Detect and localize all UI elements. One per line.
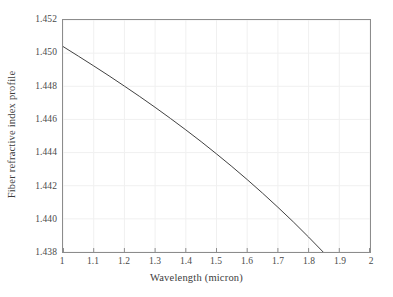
chart-figure: 1.452 1.450 1.448 1.446 1.444 1.442 1.44… [0,0,393,297]
y-tick-label: 1.452 [0,14,57,24]
x-axis-title: Wavelength (micron) [0,272,393,283]
x-tick-label: 2 [351,256,391,267]
y-axis-title: Fiber refractive index profile [6,55,17,215]
plot-area [62,19,371,253]
y-tick-label: 1.440 [0,214,57,224]
data-curve [63,20,370,252]
